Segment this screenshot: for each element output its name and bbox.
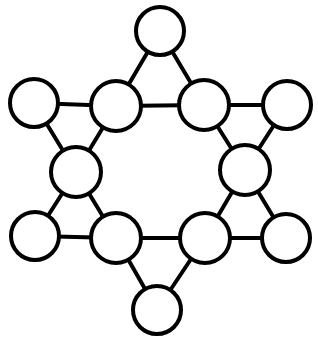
graph-node[interactable] bbox=[136, 7, 184, 55]
graph-node[interactable] bbox=[133, 286, 181, 334]
graph-node-circle[interactable] bbox=[10, 79, 58, 127]
graph-node-circle[interactable] bbox=[179, 80, 229, 130]
graph-node[interactable] bbox=[179, 80, 229, 130]
graph-node-circle[interactable] bbox=[51, 147, 101, 197]
node-layer bbox=[10, 7, 311, 334]
graph-node-circle[interactable] bbox=[11, 212, 59, 260]
graph-node-circle[interactable] bbox=[262, 214, 310, 262]
graph-node[interactable] bbox=[180, 213, 230, 263]
graph-node[interactable] bbox=[51, 147, 101, 197]
graph-node[interactable] bbox=[91, 213, 141, 263]
graph-canvas bbox=[0, 0, 318, 338]
graph-node[interactable] bbox=[11, 212, 59, 260]
graph-node-circle[interactable] bbox=[133, 286, 181, 334]
graph-node[interactable] bbox=[263, 81, 311, 129]
graph-node-circle[interactable] bbox=[91, 213, 141, 263]
graph-node-circle[interactable] bbox=[220, 145, 270, 195]
graph-figure bbox=[0, 0, 318, 338]
graph-node[interactable] bbox=[91, 81, 141, 131]
graph-node-circle[interactable] bbox=[91, 81, 141, 131]
graph-node[interactable] bbox=[10, 79, 58, 127]
graph-node[interactable] bbox=[262, 214, 310, 262]
graph-node-circle[interactable] bbox=[136, 7, 184, 55]
graph-node[interactable] bbox=[220, 145, 270, 195]
graph-node-circle[interactable] bbox=[263, 81, 311, 129]
graph-node-circle[interactable] bbox=[180, 213, 230, 263]
